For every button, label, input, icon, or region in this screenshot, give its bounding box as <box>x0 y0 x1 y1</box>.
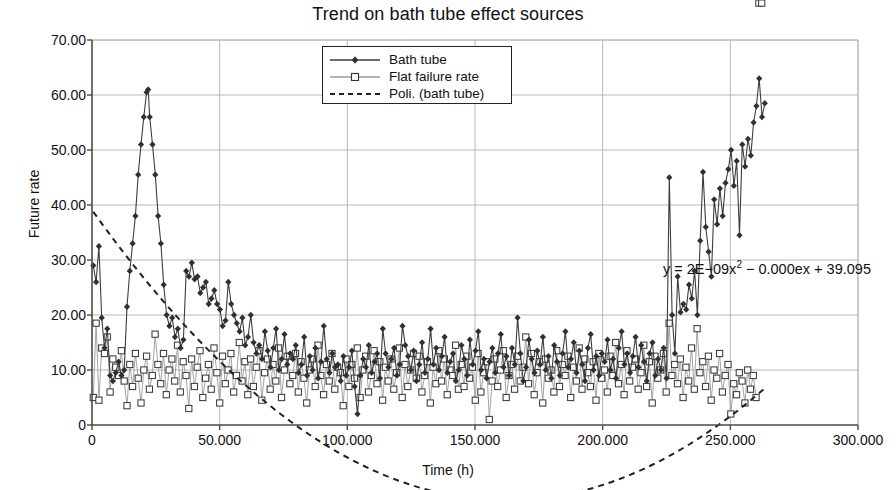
x-axis-tick-label: 150.000 <box>430 432 520 448</box>
x-axis-tick-label: 50.000 <box>175 432 265 448</box>
series-flat-failure-rate-marker <box>694 326 700 332</box>
series-flat-failure-rate-marker <box>562 372 568 378</box>
series-flat-failure-rate-marker <box>725 361 731 367</box>
series-bath-tube-marker <box>728 147 734 154</box>
series-bath-tube-marker <box>130 240 136 247</box>
series-bath-tube-marker <box>352 383 358 390</box>
series-flat-failure-rate-marker <box>587 383 593 389</box>
series-flat-failure-rate-marker <box>419 389 425 395</box>
series-bath-tube-marker <box>225 279 231 286</box>
series-flat-failure-rate-marker <box>228 350 234 356</box>
series-bath-tube-marker <box>228 301 234 308</box>
series-flat-failure-rate-marker <box>486 416 492 422</box>
series-flat-failure-rate-marker <box>276 345 282 351</box>
series-bath-tube-marker <box>585 345 591 352</box>
series-flat-failure-rate-marker <box>405 383 411 389</box>
series-bath-tube-marker <box>231 312 237 319</box>
series-flat-failure-rate-marker <box>559 361 565 367</box>
series-bath-tube-marker <box>700 169 706 176</box>
series-bath-tube-marker <box>248 312 254 319</box>
square-marker-icon <box>328 70 382 84</box>
series-flat-failure-rate-marker <box>374 381 380 387</box>
chart-legend[interactable]: Bath tube Flat failure rate Poli. (bath … <box>322 46 512 104</box>
series-bath-tube-marker <box>208 295 214 302</box>
series-flat-failure-rate-marker <box>385 378 391 384</box>
series-flat-failure-rate-marker <box>160 350 166 356</box>
series-bath-tube-marker <box>428 325 434 332</box>
series-flat-failure-rate-marker <box>399 394 405 400</box>
series-bath-tube-marker <box>273 325 279 332</box>
series-bath-tube-marker <box>343 372 349 379</box>
series-bath-tube-marker <box>399 323 405 330</box>
legend-item-bath-tube[interactable]: Bath tube <box>328 51 506 68</box>
series-bath-tube-marker <box>534 347 540 354</box>
series-flat-failure-rate-marker <box>152 331 158 337</box>
series-bath-tube-marker <box>619 328 625 335</box>
series-flat-failure-rate-marker <box>731 381 737 387</box>
series-flat-failure-rate-marker <box>531 392 537 398</box>
series-flat-failure-rate-marker <box>495 383 501 389</box>
series-bath-tube-marker <box>762 100 768 107</box>
series-flat-failure-rate-marker <box>644 383 650 389</box>
series-flat-failure-rate-marker <box>357 394 363 400</box>
series-flat-failure-rate-marker <box>146 386 152 392</box>
series-flat-failure-rate-marker <box>321 392 327 398</box>
series-flat-failure-rate-marker <box>722 372 728 378</box>
series-flat-failure-rate-marker <box>714 375 720 381</box>
series-flat-failure-rate-marker <box>214 370 220 376</box>
series-flat-failure-rate-marker <box>166 367 172 373</box>
series-flat-failure-rate-marker <box>231 389 237 395</box>
y-axis-tick-label: 50.00 <box>10 143 86 157</box>
series-bath-tube-marker <box>220 323 226 330</box>
y-axis-tick-label: 70.00 <box>10 33 86 47</box>
series-flat-failure-rate-marker <box>186 405 192 411</box>
series-flat-failure-rate-marker <box>211 345 217 351</box>
series-flat-failure-rate-marker <box>683 364 689 370</box>
series-bath-tube-marker <box>447 358 453 365</box>
series-bath-tube-marker <box>739 141 745 148</box>
series-flat-failure-rate-marker <box>453 342 459 348</box>
series-flat-failure-rate-marker <box>635 386 641 392</box>
chart-container: Trend on bath tube effect sources Future… <box>0 0 896 490</box>
series-flat-failure-rate-marker <box>604 389 610 395</box>
series-flat-failure-rate-marker <box>500 348 506 354</box>
series-bath-tube-marker <box>509 345 515 352</box>
series-flat-failure-rate-marker <box>708 397 714 403</box>
series-flat-failure-rate-marker <box>717 350 723 356</box>
series-bath-tube-marker <box>540 334 546 341</box>
series-flat-failure-rate-marker <box>180 359 186 365</box>
series-flat-failure-rate-marker <box>439 378 445 384</box>
series-flat-failure-rate-marker <box>155 361 161 367</box>
series-flat-failure-rate-marker <box>719 389 725 395</box>
series-flat-failure-rate-marker <box>548 367 554 373</box>
series-flat-failure-rate-marker <box>747 386 753 392</box>
series-bath-tube-marker <box>338 378 344 385</box>
series-flat-failure-rate-marker <box>158 381 164 387</box>
series-bath-tube-marker <box>200 284 206 291</box>
legend-label-bath-tube: Bath tube <box>389 53 447 67</box>
dashed-line-icon <box>328 87 382 101</box>
series-bath-tube-marker <box>172 334 178 341</box>
series-flat-failure-rate-marker <box>169 356 175 362</box>
legend-item-flat-failure-rate[interactable]: Flat failure rate <box>328 68 506 85</box>
series-bath-tube-marker <box>127 268 133 275</box>
series-bath-tube-marker <box>689 295 695 302</box>
series-bath-tube-marker <box>722 180 728 187</box>
series-flat-failure-rate-marker <box>273 378 279 384</box>
series-flat-failure-rate-marker <box>697 370 703 376</box>
series-flat-failure-rate-marker <box>340 403 346 409</box>
series-flat-failure-rate-marker <box>615 381 621 387</box>
series-bath-tube-marker <box>90 262 96 269</box>
series-flat-failure-rate-marker <box>290 372 296 378</box>
series-bath-tube-marker <box>293 342 299 349</box>
series-flat-failure-rate-marker <box>663 389 669 395</box>
series-flat-failure-rate-marker <box>332 386 338 392</box>
series-bath-tube-marker <box>135 171 141 178</box>
legend-item-poli-bath-tube[interactable]: Poli. (bath tube) <box>328 85 506 102</box>
series-flat-failure-rate-marker <box>677 356 683 362</box>
series-bath-tube-marker <box>321 323 327 330</box>
series-bath-tube-marker <box>245 334 251 341</box>
series-bath-tube-marker <box>703 224 709 231</box>
series-flat-failure-rate-marker <box>200 394 206 400</box>
series-flat-failure-rate-marker <box>93 320 99 326</box>
